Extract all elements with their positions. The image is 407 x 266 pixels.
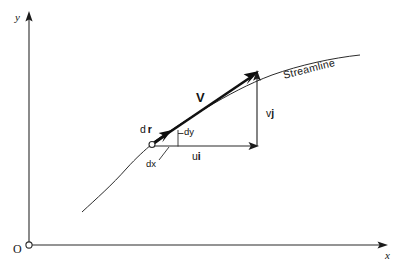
v-component-label: vj	[266, 108, 274, 119]
dy-label: dy	[184, 127, 194, 137]
streamline-curve-group	[82, 55, 360, 212]
dr-vector-label: dr	[140, 124, 152, 135]
dr-vector-arrowhead	[159, 130, 172, 142]
streamline-curve	[82, 55, 360, 212]
diagram-canvas	[0, 0, 407, 266]
streamline-diagram-figure: y x O Streamline V dr ui vj dy dx	[0, 0, 407, 266]
v-unit-vector: j	[271, 107, 274, 119]
origin-marker	[26, 242, 32, 248]
dr-vector-group	[152, 130, 172, 145]
dx-label: dx	[146, 159, 156, 169]
u-unit-vector: i	[198, 150, 201, 162]
u-component-label: ui	[192, 151, 201, 162]
dr-symbol: r	[148, 123, 152, 135]
dx-leader	[159, 147, 169, 160]
velocity-vector-label: V	[196, 91, 205, 104]
x-axis-label: x	[385, 250, 390, 261]
axes-group	[25, 11, 388, 249]
origin-label: O	[13, 243, 22, 255]
dr-prefix: d	[140, 123, 146, 135]
streamline-point-marker	[149, 142, 155, 148]
y-axis-label: y	[15, 12, 20, 23]
